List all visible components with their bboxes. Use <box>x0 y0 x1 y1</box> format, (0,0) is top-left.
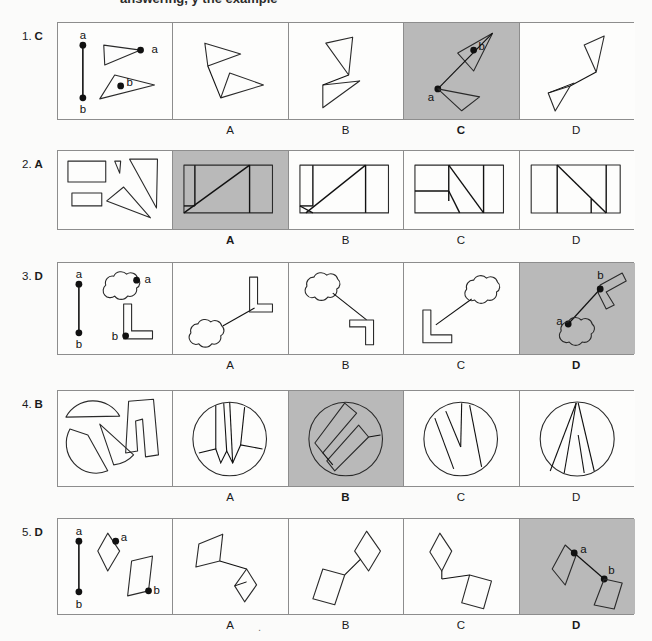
question-row-4: 4.B <box>0 390 652 508</box>
q4-disc-wedge-right <box>100 424 134 465</box>
question-5-label: 5.D <box>22 526 43 538</box>
q5-option-c-figure <box>404 519 518 614</box>
q1-prompt-label-b-bottom: b <box>80 103 86 115</box>
q1-attach-b <box>117 83 124 90</box>
q5d-parallelogram <box>594 579 622 609</box>
q5-prompt-label-b-bottom: b <box>76 598 82 610</box>
question-row-3: 3.D a b a b <box>0 262 652 377</box>
question-2-panels <box>57 150 634 230</box>
q4-option-labels: A B C D <box>57 491 634 503</box>
q4d-line-2 <box>564 403 576 473</box>
q2-option-label-c: C <box>403 234 518 246</box>
q4a-vline-3 <box>230 402 233 463</box>
q3-attach-label-a: a <box>145 273 152 285</box>
q5-option-c-panel[interactable] <box>404 519 519 614</box>
q2c-small-diagonal <box>449 191 460 213</box>
q1c-triangle-lower <box>438 89 480 111</box>
q4b-band-2 <box>327 425 369 471</box>
q4d-line-3 <box>578 403 594 471</box>
q1-option-a-figure <box>173 23 287 119</box>
q5c-parallelogram <box>462 575 492 609</box>
q4-option-b-panel[interactable] <box>289 391 404 486</box>
q5-point-b <box>76 588 83 595</box>
q4-option-a-panel[interactable] <box>173 391 288 486</box>
q1-option-d-panel[interactable] <box>520 23 635 119</box>
q5d-label-a: a <box>580 543 587 555</box>
q5-attach-label-a: a <box>121 531 128 543</box>
question-2-label: 2.A <box>22 158 43 170</box>
q1-option-a-panel[interactable] <box>173 23 288 119</box>
q2-option-b-figure <box>289 151 403 229</box>
q3-option-c-figure <box>404 263 518 354</box>
q3b-connector <box>333 293 367 320</box>
q1-option-d-figure <box>520 23 635 119</box>
q2-option-d-panel[interactable] <box>520 151 635 229</box>
q1-prompt-label-a-top: a <box>80 29 87 41</box>
q1a-triangle-upper <box>205 43 241 66</box>
q3b-elbow-shape <box>349 320 373 345</box>
q5-option-b-panel[interactable] <box>289 519 404 614</box>
q3-option-a-panel[interactable] <box>173 263 288 354</box>
q3-cloud-shape <box>103 272 140 300</box>
q1d-triangle-lower <box>548 86 570 111</box>
q2-triangle-tall <box>130 159 158 208</box>
q3-option-c-panel[interactable] <box>404 263 519 354</box>
q5-option-a-panel[interactable] <box>173 519 288 614</box>
q1-option-label-c: C <box>403 124 518 136</box>
question-4-panels <box>57 390 634 487</box>
question-4-label: 4.B <box>22 398 43 410</box>
question-row-1: 1.C a b a b <box>0 22 652 140</box>
q4-zigzag-shape <box>126 399 159 457</box>
q3-option-labels: A B C D <box>57 359 634 371</box>
q3-option-d-panel[interactable]: b a <box>520 263 635 354</box>
q2-option-a-panel[interactable] <box>173 151 288 229</box>
q2-option-label-a: A <box>172 234 287 246</box>
q5-option-d-panel[interactable]: a b <box>520 519 635 614</box>
q4c-line-1 <box>435 418 454 469</box>
q5-option-b-figure <box>289 519 403 614</box>
q5-prompt-figure: a b a b <box>58 519 172 614</box>
q4a-vline-4 <box>241 407 245 445</box>
q4-option-c-panel[interactable] <box>404 391 519 486</box>
q3c-connector <box>436 299 472 325</box>
q2-option-b-panel[interactable] <box>289 151 404 229</box>
clipped-header-text: answering, y the example <box>0 0 652 7</box>
q5-attach-a <box>112 538 119 545</box>
q3-option-label-c: C <box>403 359 518 371</box>
q4-disc-wedge-left <box>66 429 107 473</box>
q1b-triangle-upper <box>326 37 353 75</box>
q5-option-label-b: B <box>288 619 403 631</box>
q4d-line-1 <box>550 403 576 471</box>
q1-triangle-upper <box>104 45 141 65</box>
q3-option-b-panel[interactable] <box>289 263 404 354</box>
q1c-label-a: a <box>428 91 435 103</box>
q5-option-labels: A B C D <box>57 619 634 631</box>
q4-option-label-d: D <box>519 491 634 503</box>
q3-option-label-a: A <box>172 359 287 371</box>
q1-option-c-figure: b a <box>404 23 518 119</box>
q4-option-d-panel[interactable] <box>520 391 635 486</box>
q1-option-b-panel[interactable] <box>289 23 404 119</box>
q5-option-a-figure <box>173 519 287 614</box>
q1-option-label-a: A <box>172 124 287 136</box>
q2a-outer-rect <box>184 165 273 213</box>
q2-option-label-b: B <box>288 234 403 246</box>
q5d-label-b: b <box>608 564 614 576</box>
q3-option-label-b: B <box>288 359 403 371</box>
q1a-connector <box>208 66 221 98</box>
q5-prompt-label-a-top: a <box>76 525 83 537</box>
q1-option-c-panel[interactable]: b a <box>404 23 519 119</box>
q4b-band-1 <box>315 403 357 453</box>
test-page: answering, y the example 1.C a b a <box>0 0 652 641</box>
q3-prompt-panel: a b a b <box>58 263 173 354</box>
q1-option-label-d: D <box>519 124 634 136</box>
q5b-rhombus <box>354 531 380 571</box>
q2a-diagonal <box>184 165 250 213</box>
q1-option-label-b: B <box>288 124 403 136</box>
question-1-label: 1.C <box>22 30 43 42</box>
q2-option-c-panel[interactable] <box>404 151 519 229</box>
q3-point-b <box>76 329 83 336</box>
q5a-connector <box>220 561 247 569</box>
q3a-elbow-shape <box>250 277 273 312</box>
q2-rect-large <box>68 161 106 182</box>
